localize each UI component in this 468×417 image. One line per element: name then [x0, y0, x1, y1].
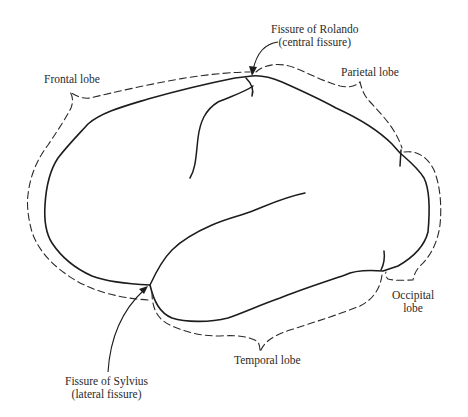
rolando-label: Fissure of Rolando (central fissure)	[271, 23, 359, 49]
sylvius-pointer-line	[108, 290, 144, 372]
parieto-occipital-tick	[400, 150, 401, 166]
occipital-label-line2: lobe	[392, 302, 434, 315]
rolando-label-line2: (central fissure)	[271, 36, 359, 49]
rolando-arrowhead-icon	[249, 66, 257, 76]
preoccipital-tick	[381, 251, 384, 270]
frontal-lobe-label: Frontal lobe	[44, 73, 100, 86]
frontal-lobe-brace	[27, 72, 250, 300]
sylvius-label-line1: Fissure of Sylvius	[65, 375, 148, 388]
temporal-lobe-brace	[152, 275, 382, 352]
lateral-fissure-line	[150, 193, 305, 285]
occipital-lobe-brace	[386, 152, 441, 281]
occipital-lobe-label: Occipital lobe	[392, 289, 434, 315]
occipital-label-line1: Occipital	[392, 289, 434, 302]
parietal-lobe-label: Parietal lobe	[341, 66, 399, 79]
central-fissure-line	[190, 86, 253, 178]
sylvius-label: Fissure of Sylvius (lateral fissure)	[65, 375, 148, 401]
sylvius-label-line2: (lateral fissure)	[65, 388, 148, 401]
hemisphere-outline	[45, 76, 430, 322]
temporal-lobe-label: Temporal lobe	[234, 354, 301, 367]
rolando-label-line1: Fissure of Rolando	[271, 23, 359, 36]
